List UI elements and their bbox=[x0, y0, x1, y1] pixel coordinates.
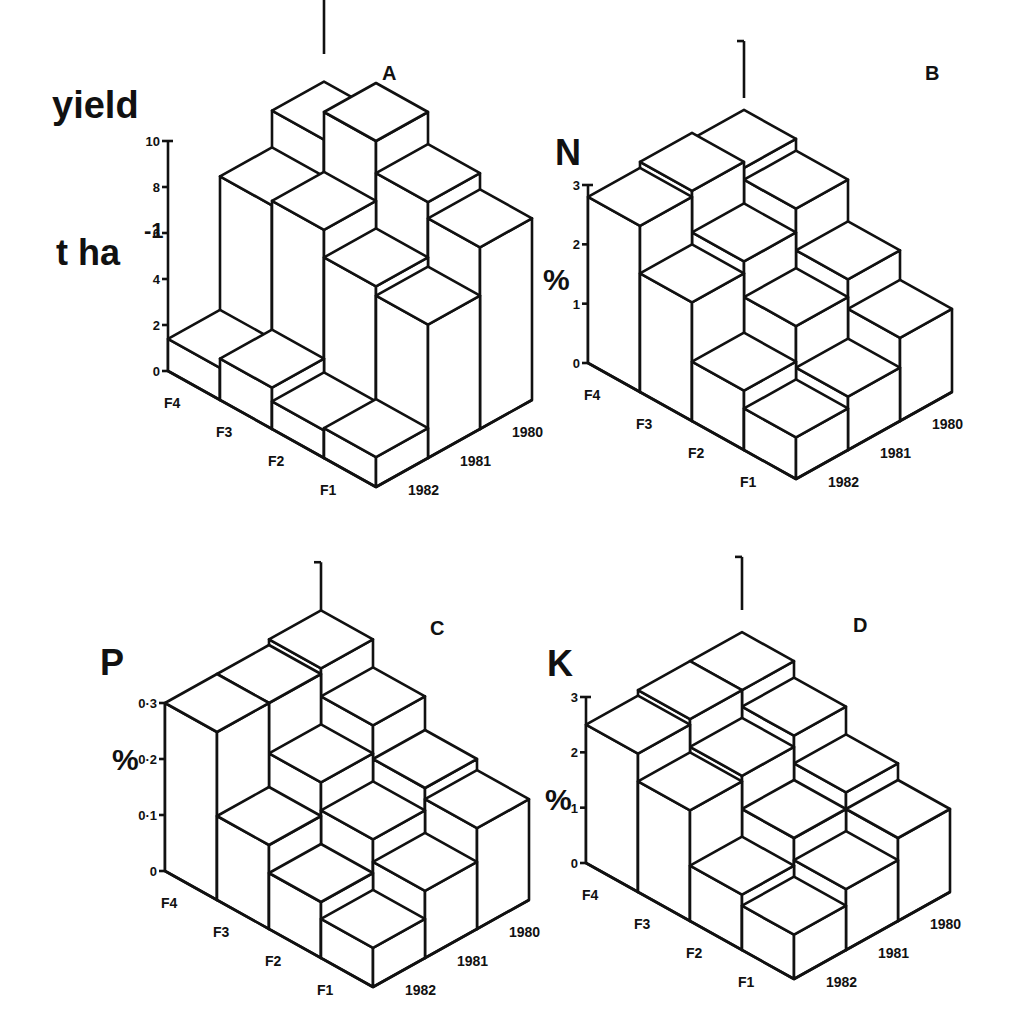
y-tick-label: 0 bbox=[571, 856, 578, 871]
x-category-label: F3 bbox=[216, 424, 233, 440]
x-category-label: F1 bbox=[740, 474, 757, 490]
panel-letter: B bbox=[925, 62, 939, 84]
plot-area: 0123F4F3F2F1198219811980 bbox=[571, 557, 962, 990]
x-category-label: F4 bbox=[584, 387, 601, 403]
x-category-label: F1 bbox=[317, 982, 334, 998]
y-tick-label: 1 bbox=[571, 801, 578, 816]
y-tick-label: 0·1 bbox=[138, 808, 157, 823]
ylabel-unit: t ha bbox=[56, 232, 121, 273]
x-category-label: F2 bbox=[686, 945, 703, 961]
y-tick-label: 2 bbox=[571, 745, 578, 760]
x-category-label: F4 bbox=[164, 395, 181, 411]
panel-d: 0123F4F3F2F1198219811980DK% bbox=[505, 520, 1015, 1035]
panel-c: 00·10·20·3F4F3F2F1198219811980CP% bbox=[0, 520, 510, 1035]
x-category-label: F2 bbox=[265, 953, 282, 969]
unit-label-percent: % bbox=[545, 783, 572, 816]
nutrient-label: N bbox=[555, 132, 581, 173]
ylabel-yield: yield bbox=[52, 84, 139, 126]
depth-category-label: 1981 bbox=[457, 953, 488, 969]
panel-a: 0246810F4F3F2F1198219811980Ayieldt ha-1 bbox=[0, 0, 510, 520]
nutrient-label: K bbox=[547, 643, 573, 684]
x-category-label: F3 bbox=[634, 916, 651, 932]
x-category-label: F2 bbox=[688, 445, 705, 461]
y-tick-label: 8 bbox=[153, 180, 160, 195]
chart-a: 0246810F4F3F2F1198219811980Ayieldt ha-1 bbox=[0, 0, 510, 520]
unit-label-percent: % bbox=[543, 263, 570, 296]
y-tick-label: 2 bbox=[153, 318, 160, 333]
depth-category-label: 1982 bbox=[405, 982, 436, 998]
depth-category-label: 1982 bbox=[828, 474, 859, 490]
x-category-label: F1 bbox=[738, 974, 755, 990]
unit-label-percent: % bbox=[112, 743, 139, 776]
panel-b: 0123F4F3F2F1198219811980BN% bbox=[505, 0, 1015, 520]
x-category-label: F2 bbox=[268, 453, 285, 469]
nutrient-label: P bbox=[100, 642, 124, 683]
chart-c: 00·10·20·3F4F3F2F1198219811980CP% bbox=[0, 520, 510, 1035]
chart-d: 0123F4F3F2F1198219811980DK% bbox=[505, 520, 1015, 1035]
x-category-label: F4 bbox=[161, 895, 178, 911]
y-tick-label: 10 bbox=[146, 134, 160, 149]
y-tick-label: 0 bbox=[153, 364, 160, 379]
plot-area: 0123F4F3F2F1198219811980 bbox=[573, 41, 964, 489]
x-category-label: F3 bbox=[636, 416, 653, 432]
ylabel-unit-superscript: -1 bbox=[144, 218, 164, 243]
depth-category-label: 1981 bbox=[460, 453, 491, 469]
depth-category-label: 1982 bbox=[408, 482, 439, 498]
y-tick-label: 1 bbox=[573, 297, 580, 312]
panel-letter: C bbox=[430, 617, 444, 639]
x-category-label: F1 bbox=[320, 482, 337, 498]
chart-b: 0123F4F3F2F1198219811980BN% bbox=[505, 0, 1015, 520]
plot-area: 00·10·20·3F4F3F2F1198219811980 bbox=[138, 562, 540, 997]
depth-category-label: 1980 bbox=[930, 916, 961, 932]
panel-letter: A bbox=[382, 62, 396, 84]
plot-area: 0246810F4F3F2F1198219811980 bbox=[146, 0, 544, 498]
x-category-label: F3 bbox=[213, 924, 230, 940]
y-tick-label: 0·3 bbox=[138, 696, 157, 711]
depth-category-label: 1981 bbox=[878, 945, 909, 961]
depth-category-label: 1980 bbox=[932, 416, 963, 432]
y-tick-label: 3 bbox=[571, 690, 578, 705]
depth-category-label: 1981 bbox=[880, 445, 911, 461]
y-tick-label: 0 bbox=[573, 356, 580, 371]
y-tick-label: 0 bbox=[150, 864, 157, 879]
y-tick-label: 3 bbox=[573, 178, 580, 193]
depth-category-label: 1982 bbox=[826, 974, 857, 990]
panel-letter: D bbox=[853, 614, 867, 636]
y-tick-label: 4 bbox=[153, 272, 161, 287]
y-tick-label: 0·2 bbox=[138, 752, 157, 767]
x-category-label: F4 bbox=[582, 887, 599, 903]
y-tick-label: 2 bbox=[573, 237, 580, 252]
